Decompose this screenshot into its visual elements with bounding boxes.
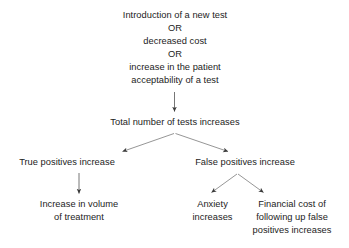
node-true-positives-increase: True positives increase [2,156,132,169]
node-source-conditions: Introduction of a new test OR decreased … [80,9,270,86]
flowchart-canvas: Introduction of a new test OR decreased … [0,0,349,248]
node-total-tests-increase: Total number of tests increases [80,116,270,129]
edge-false-positives-to-anxiety [212,174,238,193]
node-financial-cost-following-up: Financial cost of following up false pos… [238,198,346,237]
edge-total-to-true-positives [123,134,175,152]
edge-false-positives-to-financial-cost [238,174,264,193]
node-increase-volume-of-treatment: Increase in volume of treatment [14,198,144,224]
node-false-positives-increase: False positives increase [180,156,310,169]
edge-total-to-false-positives [176,134,229,152]
